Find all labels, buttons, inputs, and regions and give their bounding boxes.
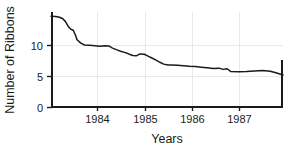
y-tick-label-0: 0 bbox=[37, 102, 43, 114]
axis-spines bbox=[51, 12, 283, 107]
y-tick-label-5: 5 bbox=[37, 71, 43, 83]
chart-figure: 0 5 10 1984 1985 1986 1987 Years Number … bbox=[0, 0, 298, 148]
y-axis-title: Number of Ribbons bbox=[3, 6, 17, 114]
x-tick-label-1986: 1986 bbox=[180, 113, 204, 125]
y-tick-labels: 0 5 10 bbox=[31, 40, 43, 114]
x-tick-label-1985: 1985 bbox=[133, 113, 157, 125]
line-chart: 0 5 10 1984 1985 1986 1987 Years Number … bbox=[0, 0, 298, 148]
y-tick-label-10: 10 bbox=[31, 40, 43, 52]
x-tick-label-1987: 1987 bbox=[227, 113, 251, 125]
x-tick-labels: 1984 1985 1986 1987 bbox=[85, 113, 251, 125]
x-axis-title: Years bbox=[151, 132, 183, 146]
x-tick-label-1984: 1984 bbox=[85, 113, 109, 125]
x-gridlines bbox=[98, 12, 240, 108]
